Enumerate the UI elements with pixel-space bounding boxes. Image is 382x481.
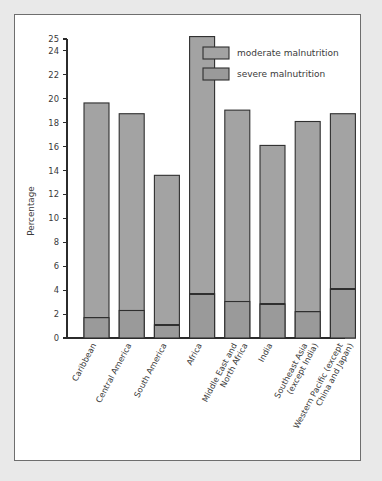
legend-label: moderate malnutrition [237, 48, 339, 58]
x-category-label: India [256, 341, 274, 363]
bar-segment-severe [84, 318, 109, 338]
bar-segment-moderate [295, 121, 320, 338]
x-category-label: Africa [184, 341, 204, 366]
y-tick-label: 14 [48, 166, 59, 176]
bar-3 [190, 37, 215, 338]
bar-segment-severe [295, 312, 320, 338]
bar-6 [295, 121, 320, 338]
y-tick-12: 12 [48, 189, 67, 199]
legend-item-moderate: moderate malnutrition [203, 47, 339, 59]
y-tick-14: 14 [48, 166, 67, 176]
x-category-label: Central America [94, 341, 134, 404]
bar-5 [260, 145, 285, 338]
y-tick-label: 12 [48, 189, 59, 199]
x-axis-category-labels: CaribbeanCentral AmericaSouth AmericaAfr… [70, 341, 355, 431]
bar-segment-moderate [154, 175, 179, 338]
y-tick-20: 20 [48, 94, 67, 104]
y-axis-ticks: 02468101214161820222425 [48, 34, 67, 343]
y-tick-16: 16 [48, 142, 67, 152]
y-axis-title: Percentage [26, 186, 36, 236]
bar-0 [84, 103, 109, 338]
y-tick-label: 16 [48, 142, 59, 152]
x-category-label: Caribbean [70, 341, 99, 383]
malnutrition-stacked-bar-chart: 02468101214161820222425 CaribbeanCentral… [15, 15, 362, 462]
y-tick-8: 8 [54, 237, 67, 247]
y-tick-label: 0 [54, 333, 59, 343]
y-tick-18: 18 [48, 118, 67, 128]
y-tick-0: 0 [54, 333, 67, 343]
legend-swatch [203, 68, 229, 80]
chart-figure-panel: 02468101214161820222425 CaribbeanCentral… [14, 14, 361, 461]
bar-segment-severe [119, 310, 144, 338]
bar-segment-severe [190, 294, 215, 338]
y-tick-10: 10 [48, 213, 67, 223]
y-tick-label: 22 [48, 70, 59, 80]
bar-segment-severe [260, 304, 285, 338]
bar-2 [154, 175, 179, 338]
bar-group [84, 37, 355, 338]
bar-segment-severe [330, 289, 355, 338]
y-tick-2: 2 [54, 309, 67, 319]
legend-swatch [203, 47, 229, 59]
y-tick-label: 2 [54, 309, 59, 319]
chart-legend: moderate malnutritionsevere malnutrition [203, 47, 339, 80]
y-tick-label: 25 [48, 34, 59, 44]
bar-7 [330, 114, 355, 338]
x-category-label: South America [132, 341, 169, 399]
y-tick-label: 4 [54, 285, 59, 295]
legend-label: severe malnutrition [237, 69, 325, 79]
bar-segment-severe [225, 302, 250, 338]
bar-segment-severe [154, 325, 179, 338]
bar-1 [119, 114, 144, 338]
y-tick-24: 24 [48, 46, 67, 56]
legend-item-severe: severe malnutrition [203, 68, 325, 80]
bar-segment-moderate [119, 114, 144, 338]
bar-segment-moderate [84, 103, 109, 338]
y-tick-25: 25 [48, 34, 67, 44]
y-tick-22: 22 [48, 70, 67, 80]
y-tick-4: 4 [54, 285, 67, 295]
y-tick-label: 24 [48, 46, 59, 56]
y-tick-label: 6 [54, 261, 59, 271]
y-tick-label: 20 [48, 94, 59, 104]
bar-4 [225, 110, 250, 338]
y-tick-label: 18 [48, 118, 59, 128]
bar-segment-moderate [190, 37, 215, 338]
y-tick-label: 10 [48, 213, 59, 223]
y-tick-6: 6 [54, 261, 67, 271]
y-tick-label: 8 [54, 237, 59, 247]
